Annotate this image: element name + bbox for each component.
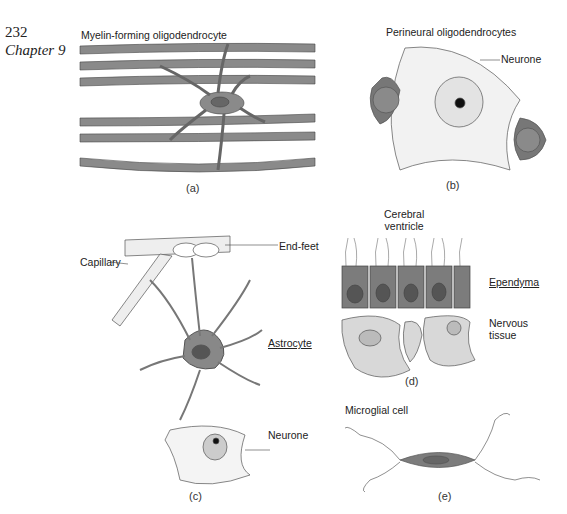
chapter-label: Chapter 9 (5, 42, 65, 59)
figure-b-caption: (b) (446, 179, 459, 191)
neurone-c (165, 426, 250, 484)
capillary (112, 236, 230, 326)
figure-c-astrocyte-label: Astrocyte (268, 337, 312, 349)
perineural-neurone (370, 47, 546, 170)
ependyma-cells (342, 266, 470, 308)
figure-b-title: Perineural oligodendrocytes (386, 26, 516, 38)
figure-c-caption: (c) (189, 490, 202, 502)
figure-d-nervous-tissue-label: Nervous tissue (489, 317, 528, 341)
figure-d-title: Cerebral ventricle (384, 208, 424, 232)
figure-b-neurone-label: Neurone (501, 53, 541, 65)
figure-a-title: Myelin-forming oligodendrocyte (81, 29, 227, 41)
figure-a-caption: (a) (186, 182, 199, 194)
figure-c-capillary-label: Capillary (80, 256, 121, 268)
figure-d-ependyma-label: Ependyma (489, 276, 539, 288)
figure-c-end-feet-label: End-feet (279, 240, 319, 252)
nervous-line2: tissue (489, 329, 528, 341)
page-number: 232 (5, 24, 28, 41)
figure-d-title-line2: ventricle (384, 220, 424, 232)
microglial-cell (345, 413, 540, 492)
astrocyte (140, 258, 262, 420)
myelinated-fibres (80, 43, 315, 172)
nervous-tissue (342, 316, 475, 377)
nervous-line1: Nervous (489, 317, 528, 329)
figure-d-caption: (d) (405, 375, 418, 387)
figure-c-neurone-label: Neurone (268, 429, 308, 441)
cilia (345, 238, 462, 266)
figure-d-title-line1: Cerebral (384, 208, 424, 220)
figure-e-caption: (e) (438, 490, 451, 502)
figure-e-title: Microglial cell (345, 404, 408, 416)
